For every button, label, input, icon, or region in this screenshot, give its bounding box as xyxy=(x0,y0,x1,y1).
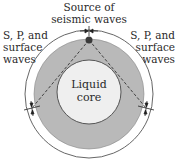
right-waves-label: S, P, and surface waves xyxy=(130,29,175,65)
source-label-line-2: seismic waves xyxy=(0,13,178,25)
source-label-line-1: Source of xyxy=(0,1,178,13)
core-label-line-2: core xyxy=(59,91,119,104)
right-waves-line-1: S, P, and xyxy=(130,29,175,41)
left-waves-label: S, P, and surface waves xyxy=(3,29,48,65)
right-waves-line-3: waves xyxy=(130,53,175,65)
core-label-line-1: Liquid xyxy=(59,78,119,91)
left-waves-line-2: surface xyxy=(3,41,48,53)
right-waves-line-2: surface xyxy=(130,41,175,53)
left-waves-line-3: waves xyxy=(3,53,48,65)
left-waves-line-1: S, P, and xyxy=(3,29,48,41)
top-marker-icon xyxy=(80,26,98,36)
source-label: Source of seismic waves xyxy=(0,1,178,25)
core-label: Liquid core xyxy=(59,78,119,104)
seismic-wave-diagram: Source of seismic waves S, P, and surfac… xyxy=(0,0,178,159)
source-dot xyxy=(86,37,93,44)
